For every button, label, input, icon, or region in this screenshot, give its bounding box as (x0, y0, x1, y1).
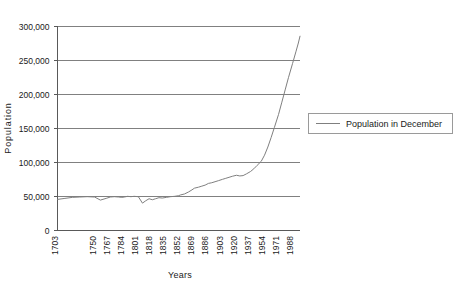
chart-legend: Population in December (309, 114, 453, 134)
y-tick-label: 300,000 (19, 22, 50, 32)
y-tick-label: 100,000 (19, 158, 50, 168)
chart-gridlines (58, 27, 301, 197)
x-tick-label: 1801 (130, 236, 140, 255)
x-tick-label: 1835 (158, 236, 168, 255)
x-tick-label: 1852 (172, 236, 182, 255)
x-tick-label: 1954 (257, 236, 267, 255)
y-axis-title: Population (3, 102, 13, 154)
chart-canvas: 050,000100,000150,000200,000250,000300,0… (0, 0, 466, 288)
y-tick-label: 50,000 (24, 192, 50, 202)
y-tick-label: 0 (45, 226, 50, 236)
y-tick-label: 150,000 (19, 124, 50, 134)
x-tick-label: 1703 (50, 236, 60, 255)
x-tick-label: 1784 (116, 236, 126, 255)
x-axis-title: Years (168, 270, 192, 280)
chart-series-group (58, 36, 301, 203)
legend-label-population-in-december: Population in December (346, 119, 442, 129)
y-axis-tickmarks (54, 27, 58, 231)
x-tick-label: 1971 (271, 236, 281, 255)
x-tick-label: 1767 (102, 236, 112, 255)
y-axis-tick-labels: 050,000100,000150,000200,000250,000300,0… (19, 22, 50, 236)
x-tick-label: 1920 (229, 236, 239, 255)
x-tick-label: 1937 (243, 236, 253, 255)
population-line-chart: 050,000100,000150,000200,000250,000300,0… (0, 0, 466, 288)
x-axis-tick-labels: 1703175017671784180118181835185218691886… (50, 236, 295, 255)
x-tick-label: 1903 (215, 236, 225, 255)
x-tick-label: 1818 (144, 236, 154, 255)
y-tick-label: 250,000 (19, 56, 50, 66)
x-tick-label: 1869 (186, 236, 196, 255)
x-tick-label: 1750 (88, 236, 98, 255)
series-line-population-in-december (58, 36, 301, 203)
x-tick-label: 1988 (285, 236, 295, 255)
y-tick-label: 200,000 (19, 90, 50, 100)
x-tick-label: 1886 (200, 236, 210, 255)
